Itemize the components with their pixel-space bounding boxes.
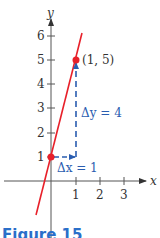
x-tick-label: 3 — [120, 188, 128, 202]
y-tick-label: 4 — [37, 77, 45, 91]
y-tick-label: 2 — [37, 126, 45, 140]
y-tick-label: 1 — [37, 150, 45, 164]
x-axis-label: x — [150, 174, 157, 188]
point-1-5 — [73, 57, 80, 64]
point-0-1 — [48, 154, 55, 161]
y-tick-label: 5 — [37, 53, 45, 67]
y-axis-label: y — [46, 6, 54, 20]
delta-x-label: Δx = 1 — [57, 161, 98, 175]
point-label: (1, 5) — [82, 53, 114, 67]
figure-caption: Figure 15 — [2, 226, 82, 238]
chart-figure: x y 1 2 3 1 2 3 4 5 6 Δx = 1 Δy = 4 (1, … — [0, 0, 160, 238]
y-tick-label: 6 — [37, 29, 45, 43]
x-tick-label: 2 — [96, 188, 104, 202]
y-ticks: 1 2 3 4 5 6 — [37, 29, 55, 164]
delta-y-label: Δy = 4 — [81, 106, 122, 120]
x-tick-label: 1 — [72, 188, 80, 202]
y-tick-label: 3 — [37, 101, 45, 115]
